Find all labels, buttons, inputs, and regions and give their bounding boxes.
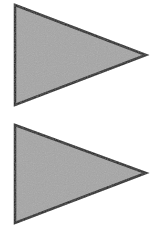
right-pointing-triangle-bottom	[15, 125, 146, 223]
right-pointing-triangle-top	[15, 5, 146, 105]
triangles-figure	[0, 0, 161, 236]
scanned-figure	[0, 0, 161, 236]
triangles-group	[15, 5, 146, 223]
